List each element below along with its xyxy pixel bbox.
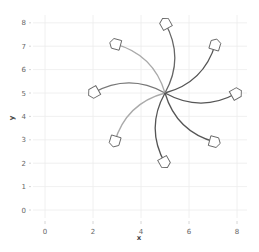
arrow-curve xyxy=(165,23,175,93)
arrow-curve xyxy=(93,83,165,93)
arrow-head-icon xyxy=(108,135,121,148)
curved-arrows-chart: 02468 012345678 x y xyxy=(0,0,259,252)
x-tick-label: 6 xyxy=(187,228,192,236)
arrow-head-icon xyxy=(158,16,172,30)
y-tick-label: 5 xyxy=(22,90,26,98)
y-tick-label: 3 xyxy=(22,136,26,144)
y-tick-label: 4 xyxy=(22,113,27,121)
y-tick-label: 8 xyxy=(22,19,26,27)
x-tick-label: 0 xyxy=(43,228,47,236)
arrow-curve xyxy=(155,93,165,163)
y-tick-label: 2 xyxy=(22,160,26,168)
arrow-curve xyxy=(165,93,215,142)
y-axis-title: y xyxy=(8,115,16,120)
arrow-head-icon xyxy=(209,38,222,51)
arrow-curve xyxy=(115,93,165,142)
arrow-curve xyxy=(165,93,237,103)
arrow-head-icon xyxy=(158,156,172,170)
arrow-curve xyxy=(115,44,165,93)
x-tick-label: 2 xyxy=(91,228,95,236)
arrow-head-icon xyxy=(208,136,221,149)
arrow-head-icon xyxy=(108,38,121,51)
y-axis-ticks: 012345678 xyxy=(22,19,31,214)
y-tick-label: 6 xyxy=(22,66,27,74)
x-tick-label: 8 xyxy=(235,228,239,236)
y-tick-label: 7 xyxy=(22,43,26,51)
arrow-head-icon xyxy=(229,86,243,100)
arrow-curve xyxy=(165,44,215,93)
y-tick-label: 1 xyxy=(22,183,26,191)
y-tick-label: 0 xyxy=(22,207,26,215)
x-axis-title: x xyxy=(137,234,142,242)
arrow-head-icon xyxy=(86,86,100,100)
